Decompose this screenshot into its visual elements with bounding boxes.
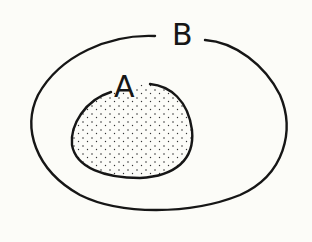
venn-diagram: B A: [0, 0, 312, 242]
set-b-label: B: [172, 20, 193, 50]
venn-drawing: [0, 0, 312, 242]
set-a-label: A: [114, 72, 135, 102]
